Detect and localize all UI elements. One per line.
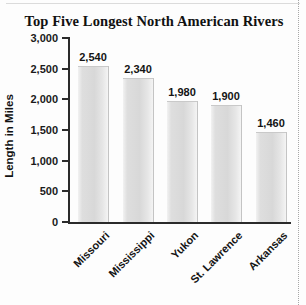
y-axis-tick (62, 129, 69, 131)
y-axis-tick (62, 221, 69, 223)
bar (78, 66, 109, 222)
y-axis-tick (62, 160, 69, 162)
y-axis-tick-label: 2,000 (0, 94, 58, 105)
plot-area (69, 38, 291, 222)
bar-value-label: 2,540 (67, 52, 119, 63)
y-axis-tick-label: 500 (0, 186, 58, 197)
x-axis-category-label: Yukon (169, 229, 201, 261)
bar (211, 105, 242, 222)
y-axis-tick-label: 3,000 (0, 33, 58, 44)
y-axis-tick-label: 1,000 (0, 155, 58, 166)
x-axis-category-label: Mississippi (106, 229, 156, 279)
y-axis-tick-label: 2,500 (0, 63, 58, 74)
bar-value-label: 2,340 (112, 64, 164, 75)
bar-value-label: 1,900 (200, 91, 252, 102)
bar (256, 132, 287, 222)
y-axis-tick-label: 1,500 (0, 125, 58, 136)
chart-figure: Top Five Longest North American Rivers L… (0, 0, 306, 305)
bar (123, 78, 154, 222)
x-axis-line (68, 222, 291, 224)
y-axis-tick (62, 190, 69, 192)
y-axis-tick (62, 37, 69, 39)
x-axis-category-label: Arkansas (246, 229, 290, 273)
scan-artifact-right-border (298, 0, 299, 305)
y-axis-title: Length in Miles (3, 71, 15, 201)
x-axis-category-label: Missouri (71, 229, 111, 269)
y-axis-tick-label: 0 (0, 217, 58, 228)
y-axis-tick (62, 98, 69, 100)
y-axis-label-group: Length in Miles (0, 0, 62, 305)
y-axis-tick (62, 68, 69, 70)
bar-value-label: 1,460 (245, 118, 297, 129)
bar (167, 101, 198, 222)
